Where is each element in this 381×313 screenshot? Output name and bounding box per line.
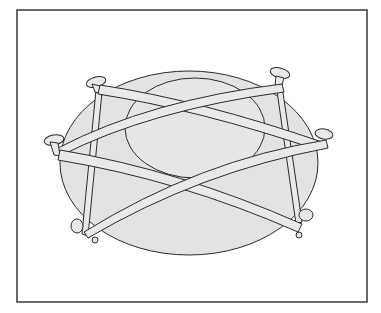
nail-head-bottom-left: [71, 219, 83, 233]
nail-head-bottom-right: [299, 209, 313, 221]
nail-tip-bottom-right: [296, 232, 302, 238]
illustration: [0, 0, 381, 313]
nail-tip-bottom-left: [92, 237, 98, 243]
